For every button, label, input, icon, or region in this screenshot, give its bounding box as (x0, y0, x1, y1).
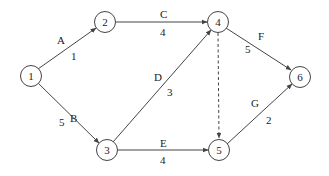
edge-G: G 2 (227, 84, 292, 144)
network-diagram: A 1 B 5 C 4 D 3 E 4 F 5 (0, 0, 329, 176)
node-6: 6 (290, 67, 311, 88)
edge-C-activity: C (160, 8, 167, 20)
node-6-label: 6 (297, 71, 303, 83)
node-2: 2 (95, 12, 116, 33)
edge-G-activity: G (251, 97, 259, 109)
node-4-label: 4 (215, 16, 221, 28)
edge-C: C 4 (115, 8, 207, 38)
node-1-label: 1 (28, 70, 34, 82)
edge-D: D 3 (113, 30, 211, 142)
edge-D-duration: 3 (167, 86, 173, 98)
node-5-label: 5 (216, 144, 222, 156)
edge-C-duration: 4 (160, 26, 166, 38)
edge-G-duration: 2 (266, 114, 272, 126)
edge-A-activity: A (57, 34, 65, 46)
node-5: 5 (209, 140, 230, 161)
edge-E-activity: E (160, 137, 167, 149)
node-2-label: 2 (102, 16, 108, 28)
edge-F-duration: 5 (245, 43, 251, 55)
node-1: 1 (21, 66, 42, 87)
edge-D-activity: D (154, 71, 162, 83)
edge-A: A 1 (38, 28, 96, 69)
edge-dummy-4-5 (218, 33, 219, 138)
edge-E: E 4 (117, 137, 208, 166)
edge-E-duration: 4 (160, 154, 166, 166)
node-4: 4 (208, 12, 229, 33)
edge-B-activity: B (70, 112, 77, 124)
node-3-label: 3 (104, 144, 110, 156)
edge-F-activity: F (258, 30, 264, 42)
node-3: 3 (97, 140, 118, 161)
edge-B-duration: 5 (59, 116, 65, 128)
edge-A-duration: 1 (71, 50, 77, 62)
edge-F: F 5 (226, 28, 291, 70)
edge-B: B 5 (38, 83, 99, 143)
